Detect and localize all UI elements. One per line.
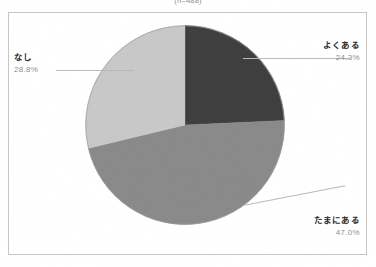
slice-label-nashi: なし 28.8% xyxy=(14,52,38,75)
slice-label-yokuaru: よくある 24.3% xyxy=(323,40,360,63)
slice-label-nashi-title: なし xyxy=(14,52,38,63)
pie-slice xyxy=(185,26,284,126)
slice-label-yokuaru-value: 24.3% xyxy=(323,52,360,63)
chart-caption: (n=488) xyxy=(0,0,376,5)
slice-label-tamaniaru-value: 47.0% xyxy=(314,227,361,238)
pie-chart-svg xyxy=(84,24,286,226)
slice-label-nashi-value: 28.8% xyxy=(14,64,38,75)
slice-label-yokuaru-title: よくある xyxy=(323,40,360,51)
slice-label-tamaniaru-title: たまにある xyxy=(314,215,361,226)
slice-label-tamaniaru: たまにある 47.0% xyxy=(314,215,361,238)
leader-line-nashi xyxy=(56,70,134,71)
pie-chart xyxy=(84,24,286,226)
